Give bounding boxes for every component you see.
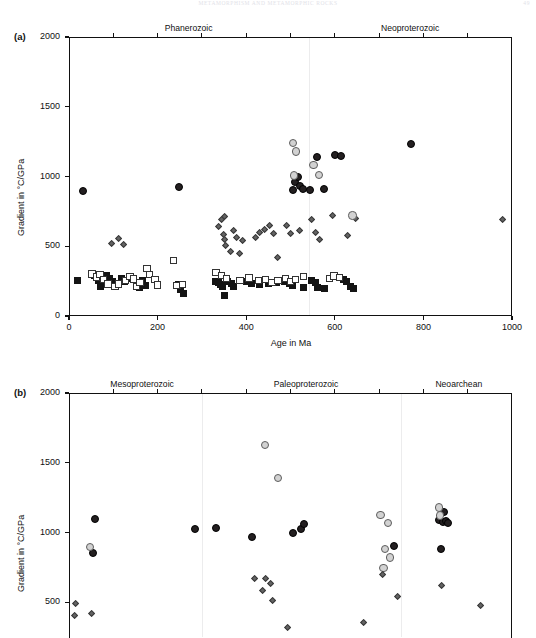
era-divider — [401, 394, 402, 637]
y-tick-label: 1000 — [28, 527, 60, 537]
panel-a-letter: (a) — [14, 31, 26, 42]
x-tick-mark — [68, 316, 69, 320]
data-point-circle-light — [386, 553, 394, 561]
era-label: Mesoproterozoic — [72, 379, 212, 389]
data-point-circle-light — [376, 511, 384, 519]
era-label: Neoarchean — [389, 379, 529, 389]
y-tick-mark — [65, 36, 69, 37]
y-tick-mark — [65, 106, 69, 107]
y-tick-label: 2000 — [28, 31, 60, 41]
x-tick-label: 800 — [398, 322, 448, 332]
x-tick-mark-top — [467, 389, 468, 393]
x-tick-label: 0 — [44, 322, 94, 332]
running-head: METAMORPHISM AND METAMORPHIC ROCKS 49 — [0, 0, 536, 6]
page-folio: 49 — [523, 0, 530, 6]
x-tick-mark-top — [290, 389, 291, 393]
x-tick-mark — [246, 316, 247, 320]
x-tick-mark — [511, 316, 512, 320]
data-point-square-filled — [74, 277, 81, 284]
data-point-circle-dark — [175, 183, 183, 191]
y-tick-label: 500 — [28, 596, 60, 606]
x-tick-label: 200 — [133, 322, 183, 332]
y-tick-mark — [65, 602, 69, 603]
x-tick-mark — [423, 316, 424, 320]
data-point-circle-light — [436, 511, 444, 519]
data-point-square-open — [292, 276, 299, 283]
era-divider — [202, 394, 203, 637]
panel-a-y-axis-title: Gradient in °C/GPa — [16, 159, 26, 236]
data-point-circle-dark — [320, 185, 328, 193]
x-tick-mark-top — [290, 33, 291, 37]
data-point-square-open — [300, 273, 307, 280]
x-tick-mark-top — [157, 33, 158, 37]
data-point-circle-dark — [390, 542, 398, 550]
y-tick-label: 0 — [28, 310, 60, 320]
data-point-square-filled — [300, 284, 307, 291]
y-tick-mark — [65, 176, 69, 177]
data-point-square-filled — [221, 292, 228, 299]
data-point-square-filled — [314, 284, 321, 291]
data-point-square-open — [179, 281, 186, 288]
y-tick-label: 2000 — [28, 387, 60, 397]
data-point-circle-dark — [306, 186, 314, 194]
x-tick-mark-top — [113, 33, 114, 37]
y-tick-mark — [65, 246, 69, 247]
y-tick-label: 1500 — [28, 457, 60, 467]
y-tick-label: 500 — [28, 240, 60, 250]
panel-b-y-axis-title: Gradient in °C/GPa — [16, 515, 26, 592]
data-point-square-open — [223, 275, 230, 282]
data-point-circle-light — [348, 211, 356, 219]
data-point-square-open — [236, 277, 243, 284]
x-tick-mark-top — [246, 33, 247, 37]
data-point-circle-dark — [337, 152, 345, 160]
y-tick-label: 1500 — [28, 101, 60, 111]
era-label: Neoproterozoic — [340, 23, 480, 33]
x-tick-mark-top — [201, 389, 202, 393]
x-tick-label: 400 — [221, 322, 271, 332]
data-point-square-open — [170, 257, 177, 264]
x-tick-mark-top — [379, 33, 380, 37]
y-tick-mark — [65, 462, 69, 463]
running-head-text: METAMORPHISM AND METAMORPHIC ROCKS — [198, 0, 337, 6]
data-point-circle-dark — [212, 524, 220, 532]
panel-b-letter: (b) — [14, 387, 26, 398]
x-tick-mark-top — [334, 389, 335, 393]
y-tick-mark — [65, 392, 69, 393]
panel-a-x-axis-title: Age in Ma — [216, 338, 366, 348]
data-point-circle-light — [290, 171, 298, 179]
data-point-circle-light — [292, 147, 300, 155]
y-tick-label: 1000 — [28, 171, 60, 181]
data-point-circle-dark — [91, 515, 99, 523]
data-point-square-filled — [350, 285, 357, 292]
data-point-square-open — [336, 274, 343, 281]
x-tick-label: 600 — [310, 322, 360, 332]
era-label: Phanerozoic — [119, 23, 259, 33]
data-point-square-filled — [180, 290, 187, 297]
y-tick-mark — [65, 532, 69, 533]
x-tick-mark-top — [423, 389, 424, 393]
era-divider — [309, 38, 310, 315]
data-point-square-open — [154, 281, 161, 288]
x-tick-mark-top — [113, 389, 114, 393]
data-point-circle-dark — [289, 529, 297, 537]
x-tick-mark-top — [201, 33, 202, 37]
x-tick-label: 1000 — [487, 322, 536, 332]
x-tick-mark-top — [246, 389, 247, 393]
data-point-square-open — [245, 274, 252, 281]
x-tick-mark-top — [423, 33, 424, 37]
x-tick-mark — [157, 316, 158, 320]
data-point-square-filled — [321, 285, 328, 292]
x-tick-mark-top — [334, 33, 335, 37]
x-tick-mark — [334, 316, 335, 320]
x-tick-mark-top — [379, 389, 380, 393]
x-tick-mark-top — [157, 389, 158, 393]
data-point-square-open — [136, 279, 143, 286]
x-tick-mark-top — [467, 33, 468, 37]
era-label: Paleoproterozoic — [236, 379, 376, 389]
